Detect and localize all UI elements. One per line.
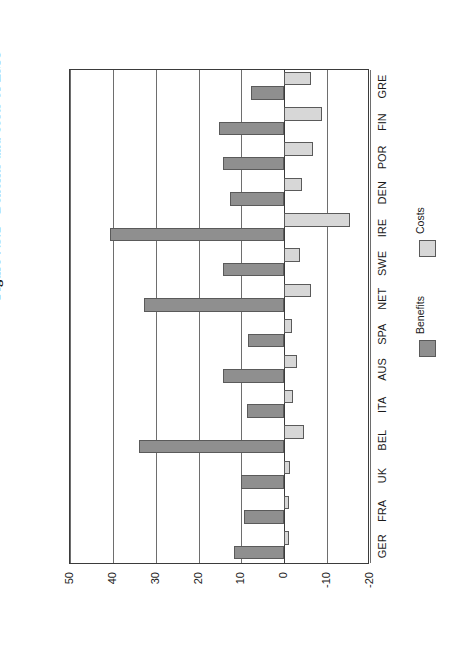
bar-fin-benefits xyxy=(219,122,284,136)
axis-tick-label: 30 xyxy=(150,572,160,618)
bar-uk-benefits xyxy=(241,475,284,489)
gridline--20 xyxy=(370,70,371,563)
gridline-20 xyxy=(199,70,200,563)
bar-ger-benefits xyxy=(234,546,285,560)
gridline-10 xyxy=(241,70,242,563)
bar-spa-benefits xyxy=(248,334,284,348)
plot-area: 50403020100-10-20 GERFRAUKBELITAAUSSPANE… xyxy=(69,54,424,624)
bar-por-benefits xyxy=(223,157,284,171)
bar-gre-costs xyxy=(284,72,311,86)
bar-net-benefits xyxy=(144,298,284,312)
bar-swe-costs xyxy=(284,248,300,262)
bar-bel-costs xyxy=(284,425,304,439)
figure-caption-text: Benefits and costs of EMU xyxy=(0,49,3,214)
bar-fin-costs xyxy=(284,107,322,121)
bar-den-costs xyxy=(284,178,302,192)
costs-swatch-icon xyxy=(419,240,436,257)
axis-tick-label: -20 xyxy=(364,572,374,618)
bar-fra-costs xyxy=(284,496,288,510)
gridline-50 xyxy=(70,70,71,563)
axis-tick-label: 10 xyxy=(235,572,245,618)
bar-bel-benefits xyxy=(139,440,284,454)
legend-label-costs: Costs xyxy=(414,207,426,234)
chart-stage: 50403020100-10-20 GERFRAUKBELITAAUSSPANE… xyxy=(54,24,410,624)
bar-ita-costs xyxy=(284,390,293,404)
axis-tick-label: 20 xyxy=(193,572,203,618)
bar-net-costs xyxy=(284,284,311,298)
figure-caption: Figure 7.5.1 Benefits and costs of EMU xyxy=(0,49,4,300)
gridline--10 xyxy=(327,70,328,563)
bar-aus-costs xyxy=(284,355,296,369)
bar-fra-benefits xyxy=(244,510,284,524)
bar-ita-benefits xyxy=(247,404,285,418)
bar-gre-benefits xyxy=(251,86,284,100)
bar-ger-costs xyxy=(284,531,289,545)
bar-den-benefits xyxy=(230,192,284,206)
figure-number: Figure 7.5.1 xyxy=(0,227,3,300)
bar-spa-costs xyxy=(284,319,292,333)
category-label-gre: GRE xyxy=(377,62,388,112)
benefits-swatch-icon xyxy=(419,340,436,357)
bar-ire-benefits xyxy=(110,228,284,242)
axis-tick-label: 50 xyxy=(64,572,74,618)
bar-por-costs xyxy=(284,142,313,156)
axis-tick-label: 40 xyxy=(107,572,117,618)
chart-legend: Benefits Costs xyxy=(399,222,459,392)
plot-frame xyxy=(69,69,369,564)
gridline-30 xyxy=(156,70,157,563)
bar-uk-costs xyxy=(284,461,290,475)
axis-tick-label: -10 xyxy=(321,572,331,618)
bar-aus-benefits xyxy=(223,369,285,383)
gridline-40 xyxy=(113,70,114,563)
legend-label-benefits: Benefits xyxy=(414,296,426,334)
figure-page: 50403020100-10-20 GERFRAUKBELITAAUSSPANE… xyxy=(0,0,464,645)
axis-tick-label: 0 xyxy=(278,572,288,618)
bar-ire-costs xyxy=(284,213,350,227)
bar-swe-benefits xyxy=(223,263,284,277)
